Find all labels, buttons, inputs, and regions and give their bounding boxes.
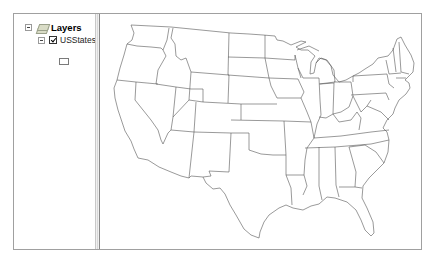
layer-label: USStates xyxy=(60,35,96,45)
us-states-map xyxy=(101,14,423,249)
toc-root-label: Layers xyxy=(51,22,82,33)
layers-icon xyxy=(36,23,47,32)
legend-symbol-swatch xyxy=(59,58,69,65)
layer-visibility-checkbox[interactable] xyxy=(49,36,57,44)
collapse-icon[interactable] xyxy=(25,24,32,31)
collapse-icon[interactable] xyxy=(38,37,45,44)
toc-root-row[interactable]: Layers xyxy=(25,22,82,33)
table-of-contents: Layers USStates xyxy=(14,14,94,249)
panel-splitter[interactable] xyxy=(95,14,100,249)
app-frame: Layers USStates xyxy=(13,13,422,250)
map-view[interactable] xyxy=(101,14,421,249)
us-outline xyxy=(114,25,414,238)
toc-layer-row-usstates[interactable]: USStates xyxy=(38,35,96,45)
